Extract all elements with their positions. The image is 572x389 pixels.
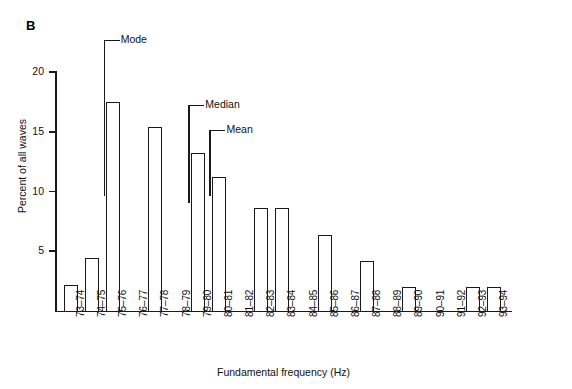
x-axis-tick-label: 74–75 [96, 290, 107, 317]
y-axis-tick-label: 20 [18, 66, 44, 76]
annotation-label-median: Median [205, 98, 239, 110]
x-axis-tick-label: 86–87 [350, 290, 361, 317]
annotation-leader-line [209, 130, 210, 196]
x-axis-tick-label: 91–92 [456, 290, 467, 317]
x-axis-tick-label: 78–79 [181, 290, 192, 317]
bar [148, 127, 162, 311]
y-axis-tick [49, 250, 56, 252]
annotation-elbow-line [209, 130, 225, 131]
x-axis-tick-label: 82–83 [265, 290, 276, 317]
x-axis-tick-label: 89–90 [413, 290, 424, 317]
annotation-label-mean: Mean [226, 123, 252, 135]
x-axis-tick-label: 75–76 [117, 290, 128, 317]
annotation-elbow-line [104, 40, 120, 41]
annotation-leader-line [104, 40, 105, 196]
x-axis-tick-label: 81–82 [244, 290, 255, 317]
x-axis-tick-label: 79–80 [202, 290, 213, 317]
y-axis-tick [49, 71, 56, 73]
x-axis-tick-label: 77–78 [159, 290, 170, 317]
x-axis-tick-label: 90–91 [435, 290, 446, 317]
y-axis-tick-label: 5 [18, 245, 44, 255]
x-axis-tick-label: 85–86 [329, 290, 340, 317]
x-axis-label: Fundamental frequency (Hz) [55, 366, 512, 378]
figure-panel-b: B 5101520 Percent of all waves 73–7474–7… [0, 0, 572, 389]
x-axis-tick-label: 73–74 [75, 290, 86, 317]
y-axis-label: Percent of all waves [16, 101, 28, 231]
x-axis-tick-label: 88–89 [392, 290, 403, 317]
x-axis-tick-label: 76–77 [138, 290, 149, 317]
annotation-elbow-line [188, 105, 204, 106]
y-axis-tick [49, 191, 56, 193]
x-axis-tick-label: 92–93 [477, 290, 488, 317]
x-axis-tick-label: 80–81 [223, 290, 234, 317]
bar [106, 102, 120, 311]
x-axis-tick-label: 83–84 [286, 290, 297, 317]
x-axis-tick-label: 93–94 [498, 290, 509, 317]
y-axis-tick [49, 131, 56, 133]
annotation-label-mode: Mode [121, 33, 147, 45]
bar [191, 153, 205, 311]
chart-plot-area: 5101520 Percent of all waves 73–7474–757… [0, 0, 572, 389]
x-axis-tick-label: 87–88 [371, 290, 382, 317]
x-axis-tick-label: 84–85 [308, 290, 319, 317]
annotation-leader-line [188, 105, 189, 203]
